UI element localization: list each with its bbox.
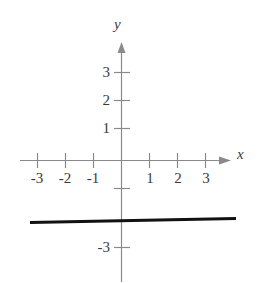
x-tick-label-neg2: -2 xyxy=(59,171,72,186)
x-tick-label-neg1: -1 xyxy=(87,171,100,186)
y-tick-label-2: 2 xyxy=(96,93,110,108)
graph-figure: ) y x -3 -2 - xyxy=(0,0,265,283)
y-axis-arrowhead xyxy=(118,42,126,53)
y-tick-label-1: 1 xyxy=(96,121,110,136)
x-axis-label: x xyxy=(237,147,244,162)
plot-line-series-0 xyxy=(30,219,236,223)
y-tick-label-neg3: -3 xyxy=(86,240,110,255)
x-tick-label-2: 2 xyxy=(174,171,182,186)
y-tick-label-3: 3 xyxy=(96,65,110,80)
x-tick-label-3: 3 xyxy=(202,171,210,186)
coordinate-plane xyxy=(0,0,265,283)
y-axis-label: y xyxy=(114,17,121,32)
x-tick-label-1: 1 xyxy=(146,171,154,186)
x-axis-arrowhead xyxy=(219,157,231,165)
x-tick-label-neg3: -3 xyxy=(31,171,44,186)
